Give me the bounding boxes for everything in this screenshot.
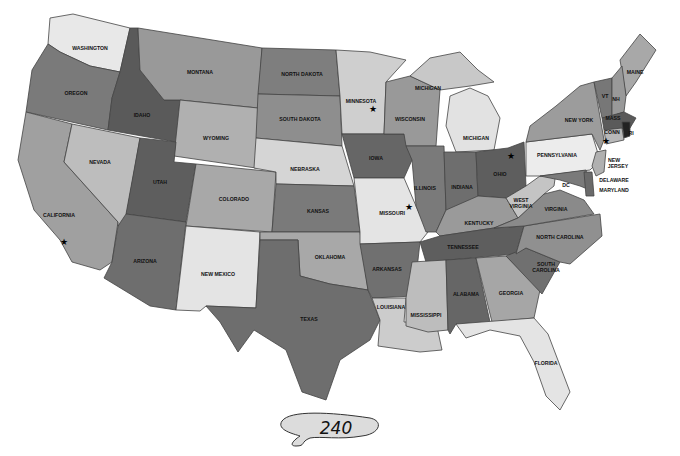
label-south-carolina-2: CAROLINA	[532, 267, 560, 273]
star-icon: ★	[405, 202, 413, 212]
label-oklahoma: OKLAHOMA	[315, 254, 346, 260]
label-alabama: ALABAMA	[453, 291, 479, 297]
label-pennsylvania: PENNSYLVANIA	[537, 152, 577, 158]
label-wisconsin: WISCONSIN	[395, 116, 425, 122]
star-icon: ★	[60, 237, 68, 247]
label-arizona: ARIZONA	[133, 258, 157, 264]
label-california: CALIFORNIA	[43, 212, 75, 218]
label-new-mexico: NEW MEXICO	[201, 271, 235, 277]
label-colorado: COLORADO	[219, 196, 249, 202]
label-north-dakota: NORTH DAKOTA	[281, 71, 323, 77]
label-south-dakota: SOUTH DAKOTA	[279, 116, 321, 122]
label-dc: DC	[562, 182, 570, 188]
star-icon: ★	[507, 151, 515, 161]
label-mississippi: MISSISSIPPI	[411, 312, 442, 318]
state-new-mexico[interactable]	[176, 226, 260, 311]
star-icon: ★	[369, 104, 377, 114]
label-ohio: OHIO	[493, 171, 506, 177]
label-louisiana: LOUISIANA	[377, 304, 406, 310]
label-mass: MASS	[606, 115, 622, 121]
label-montana: MONTANA	[187, 69, 213, 75]
state-delaware[interactable]	[584, 172, 594, 196]
label-tennessee: TENNESSEE	[447, 244, 479, 250]
label-nebraska: NEBRASKA	[290, 166, 320, 172]
label-new-jersey-2: JERSEY	[608, 163, 629, 169]
label-kansas: KANSAS	[307, 208, 329, 214]
label-missouri: MISSOURI	[379, 210, 405, 216]
label-virginia: VIRGINIA	[544, 206, 567, 212]
label-florida: FLORIDA	[534, 360, 557, 366]
label-wyoming: WYOMING	[203, 135, 229, 141]
label-vt: VT	[602, 93, 609, 99]
label-north-carolina: NORTH CAROLINA	[536, 234, 584, 240]
label-maryland: MARYLAND	[599, 187, 629, 193]
star-icon: ★	[602, 136, 610, 146]
label-michigan-lp: MICHIGAN	[463, 135, 489, 141]
label-west-virginia-2: VIRGINIA	[509, 203, 532, 209]
label-indiana: INDIANA	[451, 184, 473, 190]
label-texas: TEXAS	[300, 316, 318, 322]
label-idaho: IDAHO	[134, 112, 151, 118]
label-michigan-up: MICHIGAN	[415, 85, 441, 91]
label-kentucky: KENTUCKY	[465, 220, 494, 226]
state-wyoming[interactable]	[174, 100, 258, 168]
label-oregon: OREGON	[64, 90, 87, 96]
label-new-york: NEW YORK	[565, 117, 594, 123]
label-nh: NH	[612, 96, 620, 102]
label-illinois: ILLINOIS	[414, 185, 436, 191]
state-mississippi[interactable]	[406, 260, 448, 332]
state-maine[interactable]	[620, 34, 656, 96]
label-washington: WASHINGTON	[72, 45, 108, 51]
label-delaware: DELAWARE	[599, 177, 629, 183]
state-michigan-lp[interactable]	[446, 88, 500, 152]
label-utah: UTAH	[153, 179, 167, 185]
label-arkansas: ARKANSAS	[372, 266, 402, 272]
label-iowa: IOWA	[369, 155, 383, 161]
label-maine: MAINE	[627, 69, 644, 75]
label-conn: CONN	[604, 129, 620, 135]
label-georgia: GEORGIA	[499, 290, 524, 296]
us-map: WASHINGTON OREGON CALIFORNIA IDAHO NEVAD…	[0, 0, 680, 456]
label-nevada: NEVADA	[89, 159, 111, 165]
page-number: 240	[320, 418, 352, 438]
label-ri: RI	[628, 130, 634, 136]
